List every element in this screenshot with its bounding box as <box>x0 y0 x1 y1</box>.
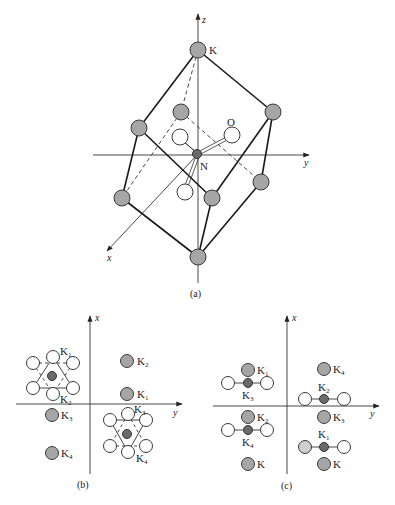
potassium-atoms <box>242 363 331 471</box>
linear-group <box>222 424 274 437</box>
panel-b: x y <box>16 312 182 491</box>
k-label: K1 <box>318 428 330 442</box>
k-label: K <box>257 458 265 470</box>
hidden-edge <box>181 50 198 112</box>
k-label: K3 <box>61 409 73 423</box>
k-label: K4 <box>242 436 254 450</box>
z-axis-label: z <box>201 14 206 25</box>
k-label: K1 <box>257 364 269 378</box>
y-axis-label: y <box>303 157 309 168</box>
k-label: K1 <box>60 345 72 359</box>
oxygen-atom <box>224 127 240 143</box>
k-label: K4 <box>61 447 73 461</box>
panel-c: x y <box>213 312 379 492</box>
x-axis-label: x <box>291 312 297 323</box>
figure-canvas: z y x <box>0 0 395 505</box>
k-label: K2 <box>257 411 269 425</box>
panel-a: z y x <box>93 14 309 300</box>
k-label: K <box>209 44 217 56</box>
y-axis-label: y <box>172 407 178 418</box>
n-label: N <box>200 160 208 172</box>
k-label: K2 <box>318 381 330 395</box>
k-label: K3 <box>242 389 254 403</box>
x-axis-label: x <box>106 252 112 263</box>
k-label: K2 <box>137 355 149 369</box>
linear-group <box>299 393 351 406</box>
oxygen-atom <box>177 184 193 200</box>
k-label: K3 <box>333 411 345 425</box>
k-label: K4 <box>333 363 345 377</box>
k-label: K2 <box>60 393 72 407</box>
y-axis-label: y <box>369 408 375 419</box>
caption-a: (a) <box>190 288 201 300</box>
caption-b: (b) <box>77 479 89 491</box>
linear-group <box>299 441 351 454</box>
potassium-atoms <box>46 355 134 460</box>
k-label: K <box>333 458 341 470</box>
nitrogen-atom <box>193 150 202 159</box>
k-label: K3 <box>134 403 146 417</box>
oxygen-atom <box>172 129 188 145</box>
linear-group <box>222 377 274 390</box>
nitrate-cluster <box>27 351 80 401</box>
k-label: K4 <box>136 452 148 466</box>
caption-c: (c) <box>281 480 292 492</box>
k-label: K1 <box>137 388 149 402</box>
o-label: O <box>227 116 235 128</box>
x-axis-label: x <box>94 312 100 323</box>
